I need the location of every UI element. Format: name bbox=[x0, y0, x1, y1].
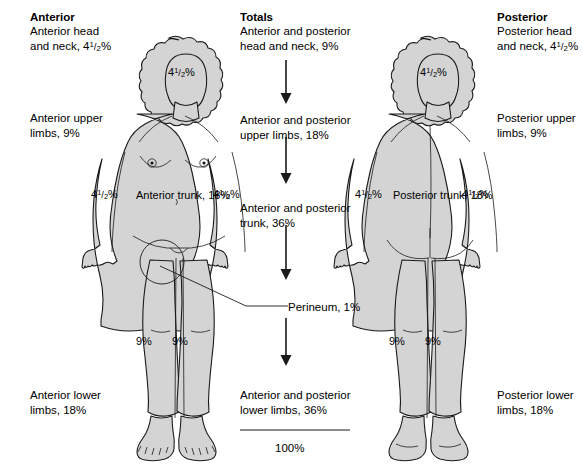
posterior-lower-limbs-label: Posterior lower limbs, 18% bbox=[497, 388, 574, 418]
posterior-left-leg-percent: 9% bbox=[389, 335, 405, 347]
one-half-fraction: 1/2 bbox=[426, 66, 437, 78]
posterior-upper-limbs-label: Posterior upper limbs, 9% bbox=[497, 111, 576, 141]
anterior-left-foot bbox=[137, 416, 174, 461]
posterior-right-leg-percent: 9% bbox=[425, 335, 441, 347]
arrow-3-head bbox=[281, 269, 292, 280]
anterior-nipple-right-dot bbox=[202, 161, 205, 164]
posterior-figure bbox=[334, 36, 497, 461]
one-half-fraction: 1/2 bbox=[89, 40, 100, 52]
totals-lower-limbs-label: Anterior and posterior lower limbs, 36% bbox=[240, 388, 351, 418]
anterior-upper-limbs-label: Anterior upper limbs, 9% bbox=[30, 111, 103, 141]
one-half-fraction: 1/2 bbox=[97, 188, 108, 200]
posterior-left-foot bbox=[389, 416, 426, 461]
totals-head-neck-label: Anterior and posterior head and neck, 9% bbox=[240, 24, 351, 54]
one-half-fraction: 1/2 bbox=[174, 66, 185, 78]
posterior-right-foot bbox=[431, 416, 468, 461]
totals-upper-limbs-label: Anterior and posterior upper limbs, 18% bbox=[240, 113, 351, 143]
posterior-head-neck-label: Posterior headand neck, 41/2% bbox=[497, 24, 578, 54]
anterior-face bbox=[165, 54, 206, 110]
posterior-trunk-percent: Posterior trunk, 18% bbox=[393, 188, 493, 203]
posterior-head-percent: 41/2% bbox=[420, 66, 447, 78]
arrow-4-head bbox=[281, 355, 292, 366]
anterior-nipple-left-dot bbox=[150, 161, 153, 164]
diagram-canvas: Anterior Anterior headand neck, 41/2% An… bbox=[0, 0, 583, 473]
anterior-right-foot bbox=[179, 416, 216, 461]
perineum-label: Perineum, 1% bbox=[288, 300, 360, 315]
one-half-fraction: 1/2 bbox=[361, 188, 372, 200]
anterior-trunk-percent: Anterior trunk, 18% bbox=[136, 188, 230, 203]
anterior-left-arm-percent: 41/2% bbox=[91, 188, 118, 200]
posterior-column-heading: Posterior bbox=[497, 10, 548, 25]
arrow-1-head bbox=[281, 93, 292, 104]
totals-column-heading: Totals bbox=[240, 10, 273, 25]
totals-trunk-label: Anterior and posterior trunk, 36% bbox=[240, 201, 351, 231]
totals-grand-total: 100% bbox=[275, 441, 304, 456]
anterior-column-heading: Anterior bbox=[30, 10, 75, 25]
posterior-left-arm-percent: 41/2% bbox=[355, 188, 382, 200]
arrow-2-head bbox=[281, 173, 292, 184]
anterior-lower-limbs-label: Anterior lower limbs, 18% bbox=[30, 388, 101, 418]
posterior-head-back bbox=[417, 54, 458, 110]
anterior-head-percent: 41/2% bbox=[168, 66, 195, 78]
anterior-head-neck-label: Anterior headand neck, 41/2% bbox=[30, 24, 111, 54]
anterior-right-leg-percent: 9% bbox=[172, 335, 188, 347]
one-half-fraction: 1/2 bbox=[556, 40, 567, 52]
anterior-left-leg-percent: 9% bbox=[136, 335, 152, 347]
